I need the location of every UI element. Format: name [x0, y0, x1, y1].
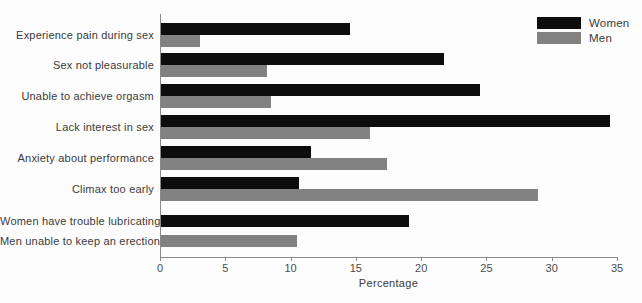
x-tick-mark: [421, 257, 422, 261]
bar-men-0: [161, 35, 200, 47]
x-tick-label: 0: [145, 262, 175, 274]
x-tick-label: 20: [406, 262, 436, 274]
bar-men-1: [161, 65, 267, 77]
legend-label-men: Men: [589, 32, 612, 44]
x-tick-mark: [617, 257, 618, 261]
plot-area: [160, 14, 618, 258]
bar-men-7: [161, 235, 297, 247]
category-label: Women have trouble lubricating: [0, 214, 154, 228]
category-label: Men unable to keep an erection: [0, 234, 154, 248]
bar-women-3: [161, 115, 610, 127]
bar-women-1: [161, 53, 444, 65]
category-label: Lack interest in sex: [0, 120, 154, 134]
x-tick-label: 5: [210, 262, 240, 274]
x-tick-mark: [291, 257, 292, 261]
legend-item-women: Women: [537, 17, 629, 29]
x-tick-mark: [486, 257, 487, 261]
x-tick-label: 35: [602, 262, 632, 274]
category-label: Sex not pleasurable: [0, 58, 154, 72]
legend-swatch-men: [537, 32, 581, 44]
x-tick-label: 25: [471, 262, 501, 274]
x-tick-mark: [356, 257, 357, 261]
x-tick-label: 15: [341, 262, 371, 274]
category-label: Experience pain during sex: [0, 28, 154, 42]
bar-women-2: [161, 84, 480, 96]
bar-women-5: [161, 177, 299, 189]
x-tick-mark: [552, 257, 553, 261]
legend-item-men: Men: [537, 32, 629, 44]
category-label: Climax too early: [0, 182, 154, 196]
legend: Women Men: [537, 17, 629, 47]
bar-women-0: [161, 23, 350, 35]
category-label: Unable to achieve orgasm: [0, 89, 154, 103]
x-tick-mark: [160, 257, 161, 261]
x-tick-label: 10: [276, 262, 306, 274]
bar-men-2: [161, 96, 271, 108]
bar-chart: Experience pain during sexSex not pleasu…: [0, 0, 642, 303]
x-tick-label: 30: [537, 262, 567, 274]
legend-label-women: Women: [589, 17, 629, 29]
bar-men-5: [161, 189, 538, 201]
bar-men-3: [161, 127, 370, 139]
bar-women-6: [161, 215, 409, 227]
bar-men-4: [161, 158, 387, 170]
x-tick-mark: [225, 257, 226, 261]
category-label: Anxiety about performance: [0, 151, 154, 165]
bar-women-4: [161, 146, 311, 158]
legend-swatch-women: [537, 17, 581, 29]
x-axis-title: Percentage: [160, 277, 617, 289]
